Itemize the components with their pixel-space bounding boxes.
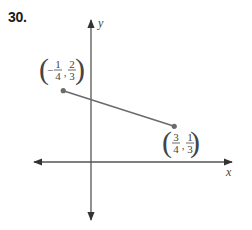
y-axis-label: y	[97, 16, 104, 30]
line-segment	[63, 91, 174, 127]
x-numerator: 1	[55, 58, 61, 70]
y-numerator: 1	[187, 131, 193, 143]
minus-sign: −	[47, 64, 53, 76]
x-numerator: 3	[173, 131, 179, 143]
point-label: ()−14,23	[39, 52, 85, 86]
x-axis-label: x	[225, 165, 232, 179]
right-paren: )	[75, 52, 85, 86]
point-label: ()34,13	[162, 125, 200, 159]
x-denominator: 4	[173, 143, 179, 155]
y-numerator: 2	[69, 58, 75, 70]
coordinate-plane: x y ()−14,23()34,13	[0, 0, 252, 230]
comma: ,	[182, 139, 185, 151]
comma: ,	[64, 66, 67, 78]
y-denominator: 3	[69, 70, 75, 82]
data-point	[61, 88, 66, 93]
data-point	[172, 124, 177, 129]
x-denominator: 4	[55, 70, 61, 82]
left-paren: (	[162, 125, 172, 159]
y-denominator: 3	[187, 143, 193, 155]
